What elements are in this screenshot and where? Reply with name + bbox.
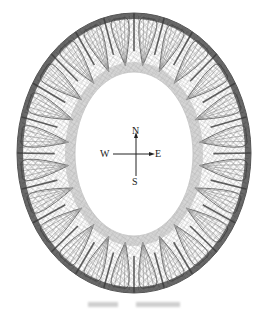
compass-north-label: N [132, 126, 139, 136]
compass-west-label: W [100, 149, 109, 159]
figure-caption-illegible [88, 302, 184, 308]
mesh-ring [17, 13, 251, 293]
ring-mesh-figure [0, 0, 265, 310]
compass-east-label: E [155, 149, 161, 159]
compass-south-label: S [132, 177, 138, 187]
